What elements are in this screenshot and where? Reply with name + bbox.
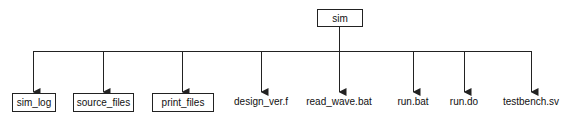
file-testbench-sv: testbench.sv	[503, 96, 559, 107]
file-design-ver-f: design_ver.f	[234, 96, 288, 107]
node-label: source_files	[77, 97, 130, 108]
folder-sim-log: sim_log	[12, 93, 56, 112]
file-run-do: run.do	[450, 96, 478, 107]
folder-print-files: print_files	[152, 93, 214, 112]
node-label: sim_log	[17, 97, 51, 108]
root-label: sim	[332, 13, 348, 24]
folder-source-files: source_files	[73, 93, 134, 112]
file-read-wave-bat: read_wave.bat	[306, 96, 372, 107]
node-label: print_files	[162, 97, 205, 108]
file-run-bat: run.bat	[397, 96, 428, 107]
root-folder-sim: sim	[317, 9, 363, 27]
